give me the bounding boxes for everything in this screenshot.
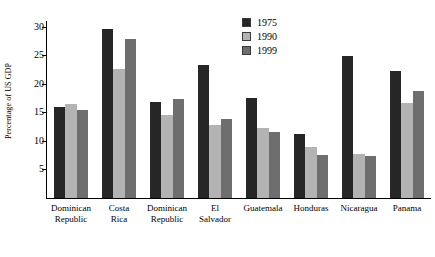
bar — [221, 119, 233, 198]
bar — [365, 156, 377, 198]
chart-legend: 197519901999 — [242, 16, 322, 58]
legend-label: 1999 — [257, 46, 277, 56]
legend-item[interactable]: 1990 — [242, 30, 322, 43]
bar — [54, 107, 66, 198]
y-axis-tick-label: 30 — [34, 22, 44, 32]
bar — [113, 69, 125, 198]
legend-swatch-icon — [242, 32, 251, 41]
y-axis-tick-label: 25 — [34, 50, 44, 60]
bar — [173, 99, 185, 198]
bar — [65, 104, 77, 198]
legend-item[interactable]: 1975 — [242, 16, 322, 29]
bar — [77, 110, 89, 199]
bar — [150, 102, 162, 198]
bar-group — [150, 21, 185, 198]
plot-area: 51015202530DominicanRepublicCostaRicaDom… — [47, 21, 431, 198]
bar — [269, 132, 281, 198]
bar — [353, 154, 365, 198]
bar-group — [390, 21, 425, 198]
bar — [246, 98, 258, 198]
legend-swatch-icon — [242, 46, 251, 55]
bar — [102, 29, 114, 198]
bar — [198, 65, 210, 198]
y-axis-tick-label: 5 — [39, 164, 44, 174]
bar — [342, 56, 354, 198]
legend-label: 1975 — [257, 18, 277, 28]
bar — [257, 128, 269, 198]
bar-chart: Percentage of US GDP 51015202530Dominica… — [0, 0, 435, 257]
bar — [305, 147, 317, 198]
x-axis-category-label-line: Panama — [377, 203, 435, 214]
y-axis-tick-label: 10 — [34, 136, 44, 146]
y-axis-tick-label: 20 — [34, 79, 44, 89]
bar — [294, 134, 306, 198]
legend-item[interactable]: 1999 — [242, 44, 322, 57]
bar — [390, 71, 402, 198]
bar — [317, 155, 329, 198]
x-axis-category-label: Panama — [377, 203, 435, 214]
legend-swatch-icon — [242, 18, 251, 27]
bar — [125, 39, 137, 198]
bar — [209, 125, 221, 198]
y-axis-tick-label: 15 — [34, 107, 44, 117]
bar — [161, 115, 173, 198]
bar — [401, 103, 413, 198]
bar — [413, 91, 425, 198]
bar-group — [54, 21, 89, 198]
bar-group — [198, 21, 233, 198]
x-axis-category-label-line: Salvador — [185, 214, 245, 225]
bar-group — [342, 21, 377, 198]
y-axis-title: Percentage of US GDP — [2, 2, 16, 200]
bar-group — [102, 21, 137, 198]
legend-label: 1990 — [257, 32, 277, 42]
x-axis-line — [46, 198, 431, 199]
